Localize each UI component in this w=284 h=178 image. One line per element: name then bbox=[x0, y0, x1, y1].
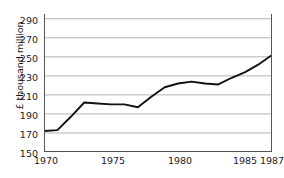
plot-area bbox=[44, 14, 272, 152]
x-tick-label: 1980 bbox=[168, 155, 192, 166]
y-axis-tick-labels: 290 270 250 230 210 190 170 150 bbox=[10, 0, 38, 178]
y-tick-label: 170 bbox=[8, 130, 38, 139]
y-tick-label: 270 bbox=[8, 35, 38, 44]
x-tick-label: 1970 bbox=[34, 155, 58, 166]
gridlines bbox=[44, 19, 272, 152]
y-tick-label: 230 bbox=[8, 73, 38, 82]
y-tick-label: 290 bbox=[8, 16, 38, 25]
y-tick-label: 250 bbox=[8, 54, 38, 63]
data-series-line bbox=[44, 55, 272, 131]
plot-svg bbox=[44, 14, 272, 152]
x-tick-label: 1975 bbox=[101, 155, 125, 166]
y-tick-label: 210 bbox=[8, 92, 38, 101]
line-chart: £ thousand million 290 270 250 230 210 1… bbox=[0, 0, 284, 178]
x-tick-label: 1985 bbox=[233, 155, 257, 166]
y-tick-label: 190 bbox=[8, 111, 38, 120]
x-axis-tick-labels: 1970 1975 1980 1985 1987 bbox=[0, 155, 284, 173]
x-tick-label: 1987 bbox=[260, 155, 284, 166]
